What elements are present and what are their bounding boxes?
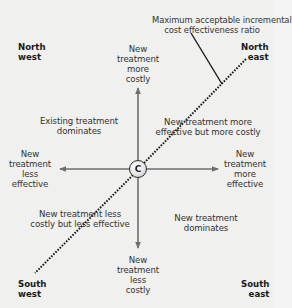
quadrant-sw-line1: New treatment less bbox=[30, 209, 130, 219]
corner-north-west: North west bbox=[18, 42, 46, 62]
quadrant-se-line2: dominates bbox=[166, 223, 246, 233]
corner-north-east: North east bbox=[241, 42, 269, 62]
axis-label-right: New treatment more effective bbox=[220, 149, 270, 189]
corner-se-line2: east bbox=[241, 289, 269, 299]
cost-effectiveness-plane: Maximum acceptable incremental cost effe… bbox=[0, 0, 274, 308]
axis-up-line1: New bbox=[113, 44, 163, 54]
quadrant-label-nw: Existing treatment dominates bbox=[36, 116, 122, 136]
axis-down-line1: New bbox=[113, 255, 163, 265]
quadrant-label-se: New treatment dominates bbox=[166, 213, 246, 233]
axis-right-line4: effective bbox=[220, 179, 270, 189]
threshold-label-line2: cost effectiveness ratio bbox=[152, 25, 272, 35]
axis-up-line3: more bbox=[113, 64, 163, 74]
axis-left-line3: less bbox=[5, 169, 55, 179]
origin-label: C bbox=[135, 164, 142, 174]
quadrant-label-ne: New treatment more effective but more co… bbox=[150, 117, 266, 137]
quadrant-nw-line2: dominates bbox=[36, 126, 122, 136]
corner-sw-line1: South bbox=[18, 279, 46, 289]
axis-down-line2: treatment bbox=[113, 265, 163, 275]
quadrant-ne-line1: New treatment more bbox=[150, 117, 266, 127]
corner-se-line1: South bbox=[241, 279, 269, 289]
axis-right-line1: New bbox=[220, 149, 270, 159]
corner-south-east: South east bbox=[241, 279, 269, 299]
axis-label-down: New treatment less costly bbox=[113, 255, 163, 295]
quadrant-se-line1: New treatment bbox=[166, 213, 246, 223]
axis-down-line4: costly bbox=[113, 285, 163, 295]
axis-right-line2: treatment bbox=[220, 159, 270, 169]
quadrant-ne-line2: effective but more costly bbox=[150, 127, 266, 137]
origin-comparator-marker: C bbox=[129, 160, 147, 178]
threshold-label-line1: Maximum acceptable incremental bbox=[152, 15, 272, 25]
corner-ne-line2: east bbox=[241, 52, 269, 62]
corner-south-west: South west bbox=[18, 279, 46, 299]
quadrant-sw-line2: costly but less effective bbox=[30, 219, 130, 229]
axis-left-line2: treatment bbox=[5, 159, 55, 169]
corner-ne-line1: North bbox=[241, 42, 269, 52]
axis-left-line4: effective bbox=[5, 179, 55, 189]
corner-nw-line1: North bbox=[18, 42, 46, 52]
quadrant-label-sw: New treatment less costly but less effec… bbox=[30, 209, 130, 229]
threshold-pointer bbox=[191, 33, 222, 84]
axis-up-line4: costly bbox=[113, 74, 163, 84]
axis-label-left: New treatment less effective bbox=[5, 149, 55, 189]
axis-down-line3: less bbox=[113, 275, 163, 285]
axis-label-up: New treatment more costly bbox=[113, 44, 163, 84]
corner-sw-line2: west bbox=[18, 289, 46, 299]
threshold-label: Maximum acceptable incremental cost effe… bbox=[152, 15, 272, 35]
quadrant-nw-line1: Existing treatment bbox=[36, 116, 122, 126]
corner-nw-line2: west bbox=[18, 52, 46, 62]
axis-up-line2: treatment bbox=[113, 54, 163, 64]
axis-right-line3: more bbox=[220, 169, 270, 179]
axis-left-line1: New bbox=[5, 149, 55, 159]
